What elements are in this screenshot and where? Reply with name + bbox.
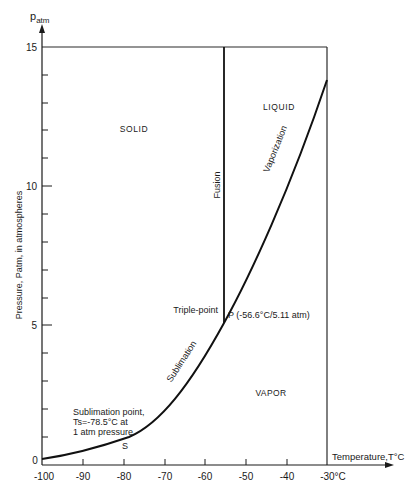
y-axis-arrow-icon <box>39 24 45 33</box>
region-label-liquid: LIQUID <box>263 102 295 112</box>
x-ticks <box>83 459 287 465</box>
x-tick-label: -70 <box>158 471 173 482</box>
phase-diagram-chart: 15 10 5 0 -100 -90 -80 -70 -60 -50 -40 -… <box>0 0 405 495</box>
x-tick-label: -50 <box>239 471 254 482</box>
y-tick-label-15: 15 <box>26 42 38 53</box>
y-axis-title: Pressure, Patm, in atmospheres <box>14 190 24 319</box>
y-ticks <box>42 75 52 437</box>
x-tick-labels: -100 -90 -80 -70 -60 -50 -40 -30°C <box>34 471 346 482</box>
fusion-label: Fusion <box>212 171 222 198</box>
sublimation-point-marker: S <box>122 441 128 451</box>
region-label-vapor: VAPOR <box>255 388 286 398</box>
x-tick-label: -90 <box>76 471 91 482</box>
x-tick-label: -80 <box>117 471 132 482</box>
triple-point-label: Triple-point <box>173 305 218 315</box>
y-tick-label-0: 0 <box>32 455 38 466</box>
x-tick-label: -30°C <box>320 471 346 482</box>
region-label-solid: SOLID <box>120 124 149 134</box>
y-axis-symbol: patm <box>30 10 50 25</box>
sublimation-point-line2: Ts=-78.5°C at <box>73 417 128 427</box>
y-tick-label-10: 10 <box>26 181 38 192</box>
triple-point-value: P (-56.6°C/5.11 atm) <box>228 310 310 320</box>
sublimation-point-line1: Sublimation point, <box>73 407 145 417</box>
vaporization-label: Vaporization <box>261 124 289 174</box>
x-tick-label: -60 <box>198 471 213 482</box>
x-axis-arrow-icon <box>385 462 394 468</box>
x-axis-title: Temperature,T°C <box>332 451 405 462</box>
x-tick-label: -40 <box>280 471 295 482</box>
y-tick-label-5: 5 <box>31 320 37 331</box>
x-tick-label: -100 <box>34 471 54 482</box>
sublimation-point-line3: 1 atm pressure <box>73 427 133 437</box>
sublimation-label: Sublimation <box>164 339 198 384</box>
